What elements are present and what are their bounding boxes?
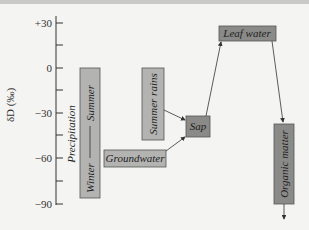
organic-matter-label: Organic matter xyxy=(278,129,290,197)
tick-label: −90 xyxy=(35,198,53,210)
tick-label: −60 xyxy=(35,152,53,164)
tick-label: −30 xyxy=(35,107,53,119)
sap-node: Sap xyxy=(186,116,210,137)
axis-title: δD (‰) xyxy=(4,88,17,123)
summer-rains-node: Summer rains xyxy=(142,68,164,140)
precipitation-label: Precipitation xyxy=(65,105,77,164)
winter-label: Winter xyxy=(84,163,96,193)
tick-label: +30 xyxy=(35,17,53,29)
groundwater-label: Groundwater xyxy=(106,152,166,164)
arrow-groundwater-to-sap xyxy=(166,137,185,151)
arrow-leaf-water-to-organic-matter xyxy=(272,41,283,122)
precipitation-node: Precipitation Winter Summer xyxy=(65,68,100,198)
leaf-water-label: Leaf water xyxy=(222,27,271,39)
groundwater-node: Groundwater xyxy=(104,150,166,167)
organic-matter-node: Organic matter xyxy=(274,124,294,204)
y-axis: +30 0 −30 −60 −90 δD (‰) xyxy=(4,16,63,210)
leaf-water-node: Leaf water xyxy=(219,26,276,41)
arrow-summer-rains-to-sap xyxy=(164,110,185,120)
sap-label: Sap xyxy=(190,120,207,132)
summer-label: Summer xyxy=(84,84,96,121)
tick-label: 0 xyxy=(47,62,53,74)
arrow-sap-to-leaf-water xyxy=(206,42,221,116)
flow-arrows xyxy=(164,41,284,219)
summer-rains-label: Summer rains xyxy=(147,73,159,134)
isotope-diagram: +30 0 −30 −60 −90 δD (‰) Precipitation W… xyxy=(0,0,309,230)
